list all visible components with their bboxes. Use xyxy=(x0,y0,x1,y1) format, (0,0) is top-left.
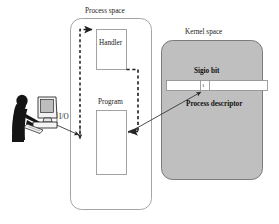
diagram-graphics xyxy=(0,0,279,224)
label-process-space: Process space xyxy=(85,8,125,15)
label-handler: Handler xyxy=(99,40,122,47)
process-descriptor-bar xyxy=(167,81,268,91)
label-process-descriptor: Process descriptor xyxy=(186,101,242,108)
program-box xyxy=(97,111,127,175)
kernel-space-container xyxy=(162,41,263,180)
handler-box xyxy=(97,30,127,70)
figure-canvas: Process space Kernel space Handler Progr… xyxy=(0,0,279,224)
user-at-computer-icon xyxy=(12,95,57,142)
label-program: Program xyxy=(98,99,123,106)
label-io: I/O xyxy=(59,114,69,121)
label-sigio-bit-value: 1 xyxy=(202,83,205,88)
label-kernel-space: Kernel space xyxy=(185,29,222,36)
label-sigio-bit: Sigio bit xyxy=(194,68,219,75)
